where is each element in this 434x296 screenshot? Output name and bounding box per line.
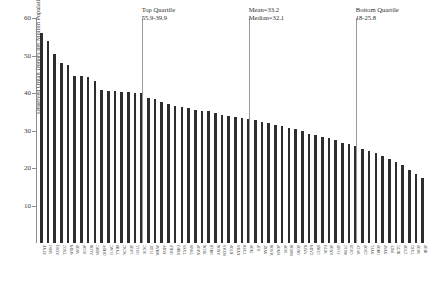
bar	[281, 126, 284, 243]
y-tick-label: 30	[24, 127, 31, 135]
x-tick-label: VATB	[304, 245, 308, 254]
x-tick-label: ALOB	[90, 245, 94, 255]
x-tick-label: AROR	[217, 245, 221, 255]
x-tick-label: OHOV	[103, 245, 107, 255]
annotation-mean-median: Mean=33.2Median=32.1	[249, 6, 284, 23]
x-tick-label: FLUF	[150, 245, 154, 254]
annotation-line-2: 18-25.8	[356, 14, 399, 22]
x-tick-label: STNY	[43, 245, 47, 254]
bar	[187, 108, 190, 243]
bar	[314, 135, 317, 243]
bar	[408, 170, 411, 244]
bar	[334, 140, 337, 243]
annotation-line-2: Median=32.1	[249, 14, 284, 22]
bar	[401, 165, 404, 243]
x-tick-label: MIOP	[417, 245, 421, 254]
bar	[40, 33, 43, 243]
x-tick-label: WIUW	[156, 245, 160, 256]
x-tick-label: IAOP	[284, 245, 288, 253]
bar	[60, 63, 63, 243]
x-tick-label: CAOP	[364, 245, 368, 255]
x-tick-label: TXSA	[183, 245, 187, 254]
annotation-bottom-quartile: Bottom Quartile18-25.8	[356, 6, 399, 23]
x-tick-label: OHLB	[210, 245, 214, 255]
bar	[368, 151, 371, 243]
x-tick-label: MAOB	[270, 245, 274, 256]
x-tick-label: LAOP	[130, 245, 134, 254]
x-tick-label: MNOP	[277, 245, 281, 255]
x-tick-label: SCSC	[143, 245, 147, 254]
bar	[214, 113, 217, 243]
bar	[254, 120, 257, 243]
bar	[301, 131, 304, 244]
x-tick-label: TNMS	[190, 245, 194, 255]
bar	[274, 125, 277, 244]
x-tick-label: HIOP	[424, 245, 428, 253]
x-tick-label: TXSG	[411, 245, 415, 254]
annotation-line-1: Top Quartile	[142, 6, 175, 14]
x-tick-label: MDPC	[96, 245, 100, 255]
plot-area: 102030405060	[36, 18, 430, 243]
x-tick-label: MOMA	[223, 245, 227, 257]
bar	[174, 106, 177, 243]
bar	[421, 178, 424, 243]
bar	[201, 111, 204, 243]
bar	[321, 137, 324, 243]
bar	[67, 65, 70, 243]
quartile-line-mean-median	[249, 18, 250, 243]
x-tick-label: FLWC	[110, 245, 114, 255]
x-tick-label: NYAP	[384, 245, 388, 254]
bar	[94, 81, 97, 243]
y-tick-label: 20	[24, 164, 31, 172]
bar	[361, 149, 364, 244]
x-tick-label: TXSB	[243, 245, 247, 254]
chart-container: Observed Organ Donors per Million Popula…	[0, 0, 434, 296]
x-tick-label: TNDS	[116, 245, 120, 254]
bar	[328, 138, 331, 243]
annotation-line-2: 55.9-39.9	[142, 14, 175, 22]
bar	[308, 134, 311, 244]
x-tick-label: PATF	[391, 245, 395, 253]
y-tick-label: 50	[24, 52, 31, 60]
annotation-line-1: Bottom Quartile	[356, 6, 399, 14]
x-tick-label: NJTO	[324, 245, 328, 254]
bar	[154, 99, 157, 243]
bar	[181, 107, 184, 243]
x-tick-label: SCOP	[83, 245, 87, 254]
bar	[73, 76, 76, 243]
bar	[221, 115, 224, 243]
bar	[114, 91, 117, 243]
bar	[341, 143, 344, 244]
x-tick-label: MWOB	[290, 245, 294, 257]
bar	[415, 174, 418, 243]
x-tick-label: OKOP	[297, 245, 301, 255]
x-tick-label: KYOP	[330, 245, 334, 255]
x-tick-label: CADN	[310, 245, 314, 255]
x-tick-label: ILIP	[257, 245, 261, 252]
y-tick-label: 60	[24, 14, 31, 22]
bar	[288, 128, 291, 244]
x-tick-label: WIDN	[70, 245, 74, 255]
x-tick-label: FLMP	[337, 245, 341, 254]
bar	[241, 118, 244, 243]
x-tick-label: INOP	[250, 245, 254, 253]
x-tick-label: NEOR	[203, 245, 207, 255]
bar	[375, 153, 378, 243]
bar	[381, 156, 384, 243]
bar	[100, 90, 103, 243]
bar	[348, 144, 351, 243]
x-tick-label: ORUO	[177, 245, 181, 255]
x-tick-label: KYDA	[237, 245, 241, 255]
bar	[127, 92, 130, 243]
bar	[147, 98, 150, 243]
x-tick-label: NYFL	[371, 245, 375, 254]
bar-series	[38, 18, 430, 243]
x-tick-label: GALL	[136, 245, 140, 255]
bar	[107, 91, 110, 243]
x-tick-label: PADV	[163, 245, 167, 254]
bar	[261, 122, 264, 244]
x-tick-label: NYRT	[264, 245, 268, 255]
bar	[395, 162, 398, 243]
annotation-line-1: Mean=33.2	[249, 6, 284, 14]
bar	[194, 110, 197, 244]
